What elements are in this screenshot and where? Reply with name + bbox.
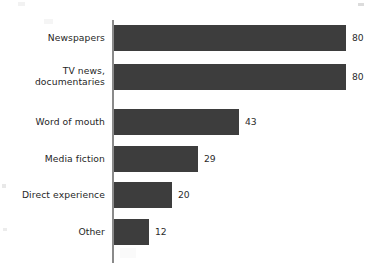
bar-value-label: 80 bbox=[352, 71, 364, 82]
bar-row: Newspapers80 bbox=[0, 25, 376, 51]
bar-category-label: Media fiction bbox=[0, 153, 105, 164]
bar-category-label: Newspapers bbox=[0, 32, 105, 43]
bar bbox=[114, 182, 172, 208]
bar-category-label: TV news, documentaries bbox=[0, 65, 105, 88]
bar-category-label: Other bbox=[0, 226, 105, 237]
bar-row: Other12 bbox=[0, 219, 376, 245]
bar-category-label: Direct experience bbox=[0, 189, 105, 200]
bar-value-label: 12 bbox=[155, 226, 167, 237]
horizontal-bar-chart: Newspapers80TV news, documentaries80Word… bbox=[0, 0, 376, 273]
bar bbox=[114, 25, 346, 51]
bar-value-label: 43 bbox=[245, 116, 257, 127]
bar-value-label: 20 bbox=[178, 189, 190, 200]
bar-row: Word of mouth43 bbox=[0, 109, 376, 135]
bar-row: Media fiction29 bbox=[0, 146, 376, 172]
bar-value-label: 29 bbox=[204, 153, 216, 164]
bar bbox=[114, 146, 198, 172]
bar-row: TV news, documentaries80 bbox=[0, 64, 376, 90]
bar-row: Direct experience20 bbox=[0, 182, 376, 208]
bar bbox=[114, 109, 239, 135]
bar bbox=[114, 219, 149, 245]
bar-value-label: 80 bbox=[352, 32, 364, 43]
plot-area: Newspapers80TV news, documentaries80Word… bbox=[0, 0, 376, 273]
bar bbox=[114, 64, 346, 90]
bar-category-label: Word of mouth bbox=[0, 116, 105, 127]
